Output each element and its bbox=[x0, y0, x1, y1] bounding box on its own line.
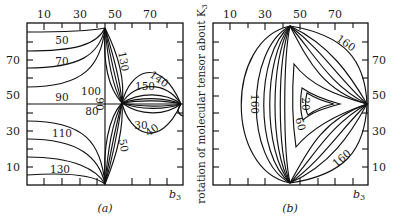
x-tick-label: 50 bbox=[108, 8, 122, 21]
contour-label: 100 bbox=[81, 85, 101, 97]
contour-label: 20 bbox=[300, 97, 312, 110]
x-tick-label: 50 bbox=[293, 8, 307, 21]
contour-label: 70 bbox=[55, 55, 68, 67]
y-tick-label: 10 bbox=[372, 161, 386, 174]
contour-label: 160 bbox=[330, 147, 353, 169]
panel-a: 10 30 50 70 70 50 30 10 bbox=[6, 8, 183, 215]
panel-label-a: (a) bbox=[97, 202, 112, 215]
y-tick-label: 70 bbox=[372, 54, 386, 67]
x-tick-label: 10 bbox=[223, 8, 237, 21]
y-tick-label: 50 bbox=[372, 89, 386, 102]
contour-label: 130 bbox=[116, 50, 131, 72]
x-tick-label: 70 bbox=[328, 8, 342, 21]
contour-label: 60 bbox=[293, 116, 308, 132]
x-axis-label: b3 bbox=[353, 188, 365, 202]
contour-label: 60 bbox=[253, 100, 265, 113]
panel-b-left-ticks bbox=[213, 42, 219, 167]
panel-label-b: (b) bbox=[282, 202, 298, 215]
contour-label: 90 bbox=[55, 91, 68, 103]
x-axis-label: b3 bbox=[169, 188, 181, 202]
y-tick-label: 50 bbox=[6, 89, 20, 102]
x-tick-label: 10 bbox=[37, 8, 51, 21]
contour-label: 150 bbox=[135, 80, 155, 92]
y-tick-label: 10 bbox=[6, 161, 20, 174]
contour-label: 50 bbox=[55, 34, 68, 46]
y-tick-label: 30 bbox=[372, 125, 386, 138]
contour-label: 110 bbox=[52, 127, 72, 139]
panel-b: 10 30 50 70 70 50 30 10 rotation of mole… bbox=[195, 4, 386, 215]
x-tick-label: 30 bbox=[73, 8, 87, 21]
contour-label: 90 bbox=[94, 97, 106, 110]
y-tick-label: 70 bbox=[6, 54, 20, 67]
figure: 10 30 50 70 70 50 30 10 bbox=[0, 0, 395, 217]
x-tick-label: 30 bbox=[258, 8, 272, 21]
contour-label: 50 bbox=[117, 138, 131, 153]
contour-label: 130 bbox=[50, 163, 70, 175]
x-tick-label: 70 bbox=[143, 8, 157, 21]
y-tick-label: 30 bbox=[6, 125, 20, 138]
y-axis-label: rotation of molecular tensor about K3 bbox=[195, 4, 209, 204]
